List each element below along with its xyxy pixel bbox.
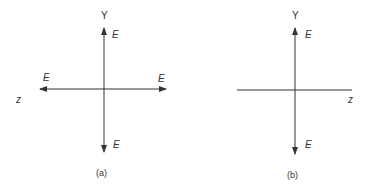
y-axis-label-a: Y bbox=[101, 11, 108, 21]
y-axis-label-b: Y bbox=[292, 11, 299, 21]
field-label-up-b: E bbox=[305, 30, 312, 40]
diagram-canvas bbox=[0, 0, 368, 184]
field-label-down-b: E bbox=[305, 140, 312, 150]
figure-b-axes bbox=[237, 28, 352, 154]
field-label-left-a: E bbox=[43, 73, 50, 83]
caption-b: (b) bbox=[287, 171, 298, 180]
figure-a-axes bbox=[40, 28, 166, 152]
caption-a: (a) bbox=[96, 169, 107, 178]
z-axis-label-a: z bbox=[16, 95, 21, 105]
z-axis-label-b: z bbox=[348, 95, 353, 105]
field-label-right-a: E bbox=[158, 74, 165, 84]
field-label-down-a: E bbox=[113, 140, 120, 150]
field-label-up-a: E bbox=[112, 30, 119, 40]
